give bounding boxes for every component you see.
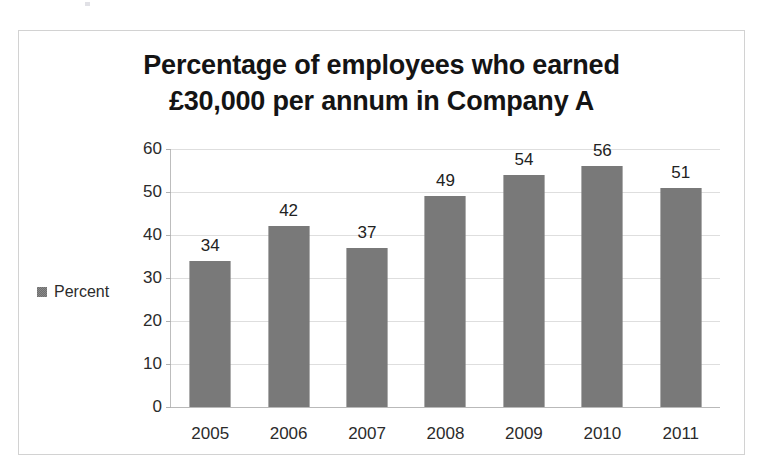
bar-value-label-2011: 51 [671,163,690,183]
scan-artifact [85,2,90,6]
bar-value-label-2007: 37 [358,223,377,243]
bar-group-2010: 562010 [563,149,641,407]
y-axis-label-40: 40 [143,225,162,245]
bar-2010[interactable] [582,166,623,407]
bar-value-label-2006: 42 [279,201,298,221]
gridline-0 [171,407,720,408]
y-axis-label-10: 10 [143,354,162,374]
bar-2009[interactable] [503,175,544,407]
y-axis-label-30: 30 [143,268,162,288]
chart-title: Percentage of employees who earned £30,0… [19,47,744,119]
bar-group-2009: 542009 [485,149,563,407]
bar-group-2008: 492008 [406,149,484,407]
plot-area: 0102030405060342005422006372007492008542… [170,149,720,407]
x-axis-label-2005: 2005 [191,424,229,444]
chart-legend: Percent [37,283,109,301]
x-axis-label-2007: 2007 [348,424,386,444]
legend-swatch-percent [37,287,47,297]
x-axis-label-2010: 2010 [583,424,621,444]
y-tick-mark-0 [166,407,171,408]
bar-2011[interactable] [660,188,701,407]
y-axis-label-0: 0 [153,397,162,417]
bar-value-label-2008: 49 [436,171,455,191]
chart-title-line-2: £30,000 per annum in Company A [19,83,744,119]
plot-wrapper: 0102030405060342005422006372007492008542… [140,149,720,407]
x-axis-label-2008: 2008 [427,424,465,444]
x-axis-label-2006: 2006 [270,424,308,444]
bar-value-label-2010: 56 [593,141,612,161]
y-axis-label-60: 60 [143,139,162,159]
legend-label-percent: Percent [54,283,109,301]
bar-group-2011: 512011 [642,149,720,407]
bar-group-2005: 342005 [171,149,249,407]
bar-group-2006: 422006 [249,149,327,407]
bar-2005[interactable] [190,261,231,407]
chart-title-line-1: Percentage of employees who earned [19,47,744,83]
bar-group-2007: 372007 [328,149,406,407]
x-axis-label-2009: 2009 [505,424,543,444]
bar-value-label-2005: 34 [201,236,220,256]
y-axis-label-20: 20 [143,311,162,331]
bar-2006[interactable] [268,226,309,407]
bar-value-label-2009: 54 [514,150,533,170]
bar-2007[interactable] [347,248,388,407]
chart-frame: Percentage of employees who earned £30,0… [18,30,745,455]
y-axis-label-50: 50 [143,182,162,202]
bar-2008[interactable] [425,196,466,407]
x-axis-label-2011: 2011 [662,424,699,444]
